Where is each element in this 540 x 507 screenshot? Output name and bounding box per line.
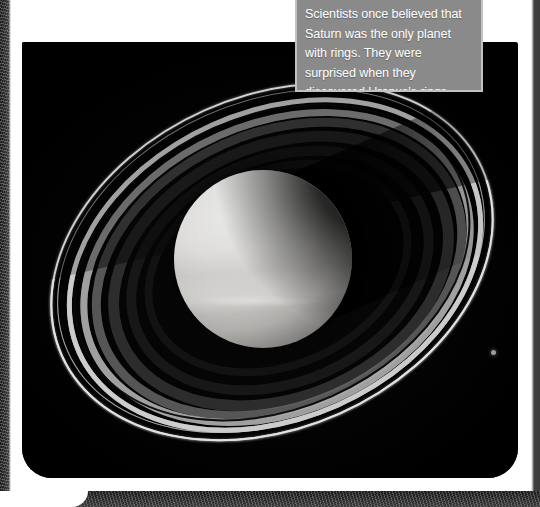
page-edge-left [0, 0, 11, 507]
page-edge-bottom [0, 491, 540, 507]
saturn-moon [491, 350, 496, 355]
planet-terminator [174, 170, 352, 348]
photo-caption-box: Scientists once believed that Saturn was… [295, 0, 483, 92]
saturn-photograph [22, 42, 518, 478]
book-page: Scientists once believed that Saturn was… [0, 0, 540, 507]
saturn-planet [174, 170, 352, 348]
page-edge-right [531, 0, 540, 507]
